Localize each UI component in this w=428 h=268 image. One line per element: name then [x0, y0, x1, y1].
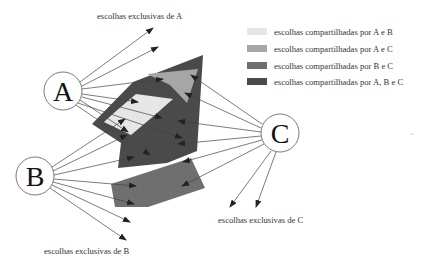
legend-label-bc: escolhas compartilhadas por B e C [274, 61, 393, 71]
node-c-label: C [271, 118, 290, 149]
legend-label-abc: escolhas compartilhadas por A, B e C [274, 77, 403, 87]
node-c: C [261, 114, 299, 152]
label-exclusive-b: escolhas exclusivas de B [44, 246, 129, 256]
node-a-label: A [53, 76, 74, 107]
venn-choice-diagram: A B C escolhas exclusivas de A escolhas … [0, 0, 428, 268]
node-b: B [16, 157, 54, 195]
label-exclusive-c: escolhas exclusivas de C [218, 215, 303, 225]
node-a: A [44, 72, 82, 110]
legend-swatch-ab [247, 28, 267, 35]
legend: escolhas compartilhadas por A e B escolh… [247, 27, 403, 87]
legend-label-ac: escolhas compartilhadas por A e C [274, 44, 393, 54]
legend-swatch-abc [247, 78, 267, 85]
legend-label-ab: escolhas compartilhadas por A e B [274, 27, 393, 37]
label-exclusive-a: escolhas exclusivas de A [97, 11, 183, 21]
node-b-label: B [26, 161, 45, 192]
legend-swatch-ac [247, 45, 267, 52]
arrows-from-b [50, 119, 136, 240]
legend-swatch-bc [247, 62, 267, 69]
shared-regions [92, 55, 205, 207]
